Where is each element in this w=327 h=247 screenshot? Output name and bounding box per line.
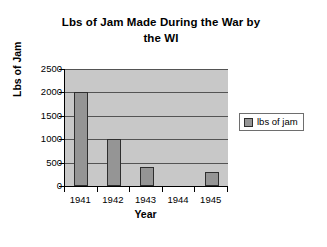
y-axis-tick-label: 2500 [26, 64, 62, 74]
x-axis-tick-mark [227, 187, 228, 192]
bar [140, 167, 154, 186]
x-axis-tick-label: 1945 [191, 194, 231, 205]
plot-area [64, 69, 228, 187]
legend-item-label: lbs of jam [257, 117, 298, 127]
gridline [65, 69, 228, 70]
y-axis-tick-label: 500 [26, 158, 62, 168]
y-axis-tick-label: 0 [26, 181, 62, 191]
x-axis-tick-mark [162, 187, 163, 192]
x-axis-tick-mark [97, 187, 98, 192]
bar-chart-figure: Lbs of Jam Made During the War by the WI… [0, 0, 327, 247]
bar [74, 92, 88, 186]
y-axis-tick-labels: 25002000150010005000 [26, 64, 62, 188]
x-axis-title: Year [64, 208, 227, 220]
y-axis-title: Lbs of Jam [11, 42, 23, 97]
y-axis-tick-label: 2000 [26, 87, 62, 97]
y-axis-tick-label: 1000 [26, 134, 62, 144]
x-axis-tick-mark [194, 187, 195, 192]
legend-swatch-icon [244, 118, 253, 127]
gridline [65, 139, 228, 140]
y-axis-tick-label: 1500 [26, 111, 62, 121]
chart-legend: lbs of jam [239, 113, 304, 131]
chart-title-line-2: the WI [143, 32, 178, 44]
x-axis-tick-mark [129, 187, 130, 192]
plot-inner [65, 69, 228, 186]
bar [107, 139, 121, 186]
gridline [65, 92, 228, 93]
gridline [65, 116, 228, 117]
chart-title: Lbs of Jam Made During the War by the WI [30, 14, 292, 46]
bar [205, 172, 219, 186]
gridline [65, 163, 228, 164]
chart-title-line-1: Lbs of Jam Made During the War by [62, 16, 260, 28]
x-axis-origin-tick-mark [64, 187, 65, 192]
